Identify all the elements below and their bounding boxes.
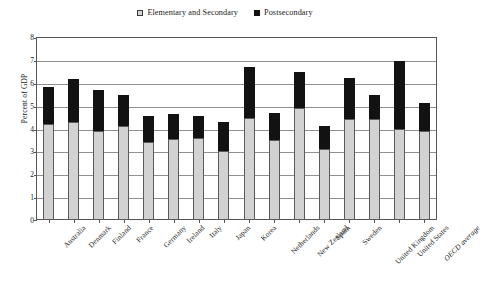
x-tick-mark — [274, 220, 275, 223]
bar-segment-elementary[interactable] — [193, 138, 204, 220]
bar-segment-postsecondary[interactable] — [218, 122, 229, 152]
bar-segment-elementary[interactable] — [244, 118, 255, 220]
x-tick-mark — [424, 220, 425, 223]
x-axis-label: Finland — [110, 224, 132, 246]
bar-group[interactable] — [193, 37, 204, 220]
bar-segment-postsecondary[interactable] — [244, 67, 255, 118]
bar-segment-elementary[interactable] — [319, 149, 330, 220]
bars-layer — [36, 37, 437, 220]
y-axis-title: Percent of GDP — [20, 39, 29, 159]
x-tick-mark — [49, 220, 50, 223]
bar-segment-postsecondary[interactable] — [419, 103, 430, 130]
elementary-swatch-icon — [137, 10, 143, 16]
bar-segment-postsecondary[interactable] — [394, 61, 405, 128]
bar-group[interactable] — [68, 37, 79, 220]
bar-group[interactable] — [419, 37, 430, 220]
x-tick-mark — [224, 220, 225, 223]
bar-group[interactable] — [118, 37, 129, 220]
bar-segment-postsecondary[interactable] — [294, 72, 305, 107]
x-tick-mark — [249, 220, 250, 223]
x-tick-mark — [399, 220, 400, 223]
x-axis-label: Korea — [259, 224, 278, 243]
x-axis-label: Australia — [62, 224, 87, 249]
y-tick-label: 5 — [30, 103, 34, 111]
bar-segment-postsecondary[interactable] — [269, 113, 280, 140]
bar-segment-elementary[interactable] — [143, 142, 154, 220]
bar-segment-elementary[interactable] — [269, 140, 280, 220]
y-tick-mark — [34, 220, 37, 221]
y-tick-label: 1 — [30, 194, 34, 202]
bar-group[interactable] — [93, 37, 104, 220]
bar-group[interactable] — [344, 37, 355, 220]
y-tick-label: 4 — [30, 126, 34, 134]
bar-segment-elementary[interactable] — [394, 129, 405, 221]
x-axis-label: Italy — [208, 224, 224, 240]
x-axis-label: Japan — [234, 224, 252, 242]
bar-segment-elementary[interactable] — [68, 122, 79, 220]
bar-group[interactable] — [244, 37, 255, 220]
x-tick-mark — [324, 220, 325, 223]
x-axis-label: Sweden — [361, 224, 384, 247]
chart-legend: Elementary and Secondary Postsecondary — [0, 8, 450, 17]
bar-segment-postsecondary[interactable] — [344, 78, 355, 119]
y-tick-label: 6 — [30, 80, 34, 88]
bar-group[interactable] — [143, 37, 154, 220]
bar-segment-postsecondary[interactable] — [68, 79, 79, 121]
x-tick-mark — [174, 220, 175, 223]
bar-segment-elementary[interactable] — [93, 131, 104, 220]
bar-segment-elementary[interactable] — [218, 151, 229, 220]
bar-segment-elementary[interactable] — [294, 108, 305, 220]
bar-segment-postsecondary[interactable] — [193, 116, 204, 138]
x-axis-label: Denmark — [87, 224, 113, 250]
bar-segment-postsecondary[interactable] — [143, 116, 154, 142]
x-tick-mark — [374, 220, 375, 223]
x-tick-mark — [349, 220, 350, 223]
bar-group[interactable] — [218, 37, 229, 220]
y-tick-label: 7 — [30, 57, 34, 65]
x-axis-label: Spain — [334, 224, 352, 242]
bar-group[interactable] — [369, 37, 380, 220]
legend-entry-elementary-and-secondary: Elementary and Secondary — [137, 8, 238, 17]
legend-label-elementary: Elementary and Secondary — [147, 8, 238, 17]
x-tick-mark — [299, 220, 300, 223]
bar-group[interactable] — [168, 37, 179, 220]
bar-segment-elementary[interactable] — [43, 124, 54, 220]
bar-segment-postsecondary[interactable] — [118, 95, 129, 126]
bar-segment-elementary[interactable] — [168, 139, 179, 220]
bar-segment-postsecondary[interactable] — [168, 114, 179, 139]
y-tick-label: 8 — [30, 34, 34, 42]
bar-group[interactable] — [269, 37, 280, 220]
x-axis-label: France — [135, 224, 155, 244]
bar-segment-elementary[interactable] — [118, 126, 129, 220]
y-tick-label: 2 — [30, 171, 34, 179]
bar-segment-elementary[interactable] — [369, 119, 380, 220]
bar-group[interactable] — [394, 37, 405, 220]
bar-segment-postsecondary[interactable] — [43, 87, 54, 124]
x-axis-labels: AustraliaDenmarkFinlandFranceGermanyIrel… — [36, 224, 437, 290]
bar-segment-elementary[interactable] — [419, 131, 430, 220]
x-tick-mark — [99, 220, 100, 223]
bar-group[interactable] — [319, 37, 330, 220]
postsecondary-swatch-icon — [254, 10, 260, 16]
bar-segment-postsecondary[interactable] — [369, 95, 380, 119]
legend-label-postsecondary: Postsecondary — [264, 8, 313, 17]
bar-group[interactable] — [294, 37, 305, 220]
bar-segment-elementary[interactable] — [344, 119, 355, 220]
y-tick-label: 0 — [30, 217, 34, 225]
bar-group[interactable] — [43, 37, 54, 220]
x-axis-label: Germany — [162, 224, 188, 250]
legend-entry-postsecondary: Postsecondary — [254, 8, 313, 17]
y-tick-label: 3 — [30, 148, 34, 156]
x-tick-mark — [124, 220, 125, 223]
x-tick-mark — [74, 220, 75, 223]
bar-segment-postsecondary[interactable] — [319, 126, 330, 149]
bar-segment-postsecondary[interactable] — [93, 90, 104, 131]
x-axis-label: Ireland — [185, 224, 206, 245]
